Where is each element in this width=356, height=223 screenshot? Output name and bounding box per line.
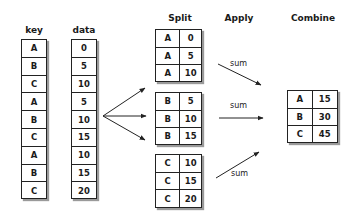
flow-arrows [0, 0, 356, 223]
apply-label-sum: sum [230, 59, 247, 68]
apply-label-sum: sum [230, 101, 247, 110]
split-arrows [103, 88, 146, 140]
arrow-icon [103, 116, 145, 140]
apply-arrows [216, 64, 263, 178]
arrow-icon [103, 88, 145, 116]
apply-label-sum: sum [231, 169, 248, 178]
